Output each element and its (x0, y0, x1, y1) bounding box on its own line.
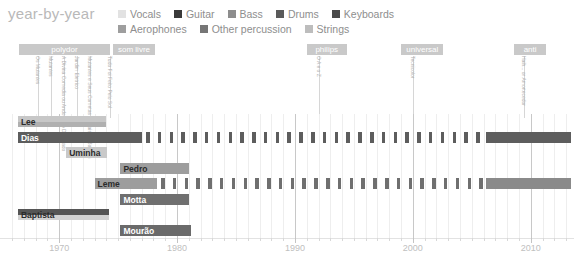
album-annotation: Os Mutantes (38, 56, 39, 118)
axis-tick-minor (212, 238, 213, 241)
axis-line (0, 238, 574, 239)
axis-tick-minor (554, 238, 555, 241)
member-name-label: Mourão (123, 226, 154, 236)
legend-swatch-icon (228, 10, 236, 18)
axis-tick-minor (24, 238, 25, 241)
album-annotations: Os MutantesMutantesA Divina Comedia ou A… (0, 56, 574, 118)
album-annotation: Jardim Eletrico (77, 56, 78, 118)
album-annotation: Tudo Foi Feito Pelo Sol (110, 56, 111, 118)
axis-year-label: 2010 (521, 243, 541, 253)
legend-label: Aerophones (130, 23, 187, 35)
annotation-label: Jardim Eletrico (74, 56, 79, 89)
timeline-row-dias[interactable] (0, 132, 574, 143)
annotation-label: Haih... or Amortecedor (521, 56, 526, 106)
axis-tick-minor (307, 238, 308, 241)
legend-swatch-icon (174, 10, 182, 18)
legend-label: Vocals (130, 8, 161, 20)
axis-tick-minor (248, 238, 249, 241)
member-name-label: Motta (123, 195, 146, 205)
axis-tick-minor (460, 238, 461, 241)
axis-tick-minor (201, 238, 202, 241)
axis-year-label: 2000 (403, 243, 423, 253)
timeline-plot: LeeDiasUminhaPedroLemeMottaBaptistaMourã… (0, 114, 574, 238)
era-bar-philips[interactable]: philips (307, 44, 347, 55)
annotation-label: O A e o Z (316, 56, 321, 77)
legend-swatch-icon (332, 10, 340, 18)
album-annotation: A Divina Comedia ou Ando Meio Desligado (64, 56, 65, 118)
axis-year-label: 1980 (167, 243, 187, 253)
axis-tick-minor (12, 238, 13, 241)
era-bar-anti[interactable]: anti (514, 44, 546, 55)
axis-tick-minor (342, 238, 343, 241)
album-annotation: Mutantes e Seus Cometas no Pais do Baure… (90, 56, 91, 118)
timeline-segment-bass (161, 178, 484, 189)
legend-item-keyboards[interactable]: Keyboards (332, 8, 394, 20)
legend-label: Drums (288, 8, 319, 20)
legend-row: VocalsGuitarBassDrumsKeyboards (118, 6, 568, 21)
legend-label: Other percussion (212, 23, 292, 35)
legend-item-drums[interactable]: Drums (276, 8, 319, 20)
legend: VocalsGuitarBassDrumsKeyboardsAerophones… (118, 6, 568, 36)
axis-year-label: 1990 (285, 243, 305, 253)
legend-item-strings[interactable]: Strings (305, 23, 350, 35)
timeline-row-motta[interactable] (0, 194, 574, 205)
axis-year-label: 1970 (49, 243, 69, 253)
legend-label: Keyboards (344, 8, 394, 20)
axis-tick-minor (401, 238, 402, 241)
annotation-label: Os Mutantes (35, 56, 40, 84)
axis-tick-minor (260, 238, 261, 241)
page-title: year-by-year (8, 5, 95, 22)
timeline-row-baptista[interactable] (0, 209, 574, 220)
timeline-row-mourão[interactable] (0, 225, 574, 236)
axis-tick-minor (543, 238, 544, 241)
axis-tick-minor (153, 238, 154, 241)
annotation-label: Mutantes (48, 56, 53, 77)
axis-tick-minor (271, 238, 272, 241)
member-name-label: Uminha (69, 148, 100, 158)
axis-tick-minor (189, 238, 190, 241)
axis-tick-minor (283, 238, 284, 241)
axis-tick-minor (165, 238, 166, 241)
era-bar-som-livre[interactable]: som livre (113, 44, 154, 55)
legend-item-aerophones[interactable]: Aerophones (118, 23, 187, 35)
member-name-label: Lee (21, 117, 36, 127)
axis-tick-minor (106, 238, 107, 241)
member-name-label: Pedro (123, 164, 147, 174)
axis-tick-minor (330, 238, 331, 241)
header: year-by-year VocalsGuitarBassDrumsKeyboa… (0, 0, 574, 40)
axis-tick-minor (377, 238, 378, 241)
legend-swatch-icon (305, 25, 313, 33)
axis-tick-minor (448, 238, 449, 241)
era-bar-universal[interactable]: universal (401, 44, 443, 55)
axis-tick-minor (130, 238, 131, 241)
timeline-row-pedro[interactable] (0, 163, 574, 174)
legend-item-guitar[interactable]: Guitar (174, 8, 215, 20)
label-era-band: polydorsom livrephilipsuniversalanti (0, 44, 574, 55)
legend-item-vocals[interactable]: Vocals (118, 8, 161, 20)
legend-row: AerophonesOther percussionStrings (118, 21, 568, 36)
axis-tick-minor (95, 238, 96, 241)
timeline-segment-guitar (146, 132, 483, 143)
year-axis: 19701980199020002010 (0, 238, 574, 265)
axis-tick-minor (484, 238, 485, 241)
legend-swatch-icon (118, 25, 126, 33)
legend-label: Bass (240, 8, 263, 20)
timeline-segment-guitar (486, 132, 571, 143)
legend-item-other-percussion[interactable]: Other percussion (200, 23, 292, 35)
axis-tick-minor (519, 238, 520, 241)
axis-tick-minor (425, 238, 426, 241)
axis-tick-minor (507, 238, 508, 241)
axis-tick-minor (36, 238, 37, 241)
annotation-label: Tecnicolor (410, 56, 415, 79)
member-name-label: Dias (21, 133, 39, 143)
legend-swatch-icon (200, 25, 208, 33)
legend-item-bass[interactable]: Bass (228, 8, 263, 20)
legend-swatch-icon (276, 10, 284, 18)
timeline-row-lee[interactable] (0, 116, 574, 127)
axis-tick-minor (118, 238, 119, 241)
album-annotation: Tecnicolor (413, 56, 414, 118)
legend-swatch-icon (118, 10, 126, 18)
axis-tick-minor (319, 238, 320, 241)
era-bar-polydor[interactable]: polydor (19, 44, 110, 55)
timeline-row-leme[interactable] (0, 178, 574, 189)
